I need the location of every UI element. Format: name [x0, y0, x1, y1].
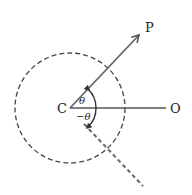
- dashed-line-negative-theta: [84, 124, 143, 186]
- angle-arc-theta: [88, 89, 96, 108]
- label-angle-negative-theta: −θ: [76, 111, 90, 122]
- label-angle-theta: θ: [79, 95, 85, 106]
- label-point-o: O: [170, 101, 181, 116]
- label-center-c: C: [57, 101, 67, 116]
- angle-diagram: C O P θ −θ: [0, 0, 192, 195]
- label-point-p: P: [145, 20, 154, 35]
